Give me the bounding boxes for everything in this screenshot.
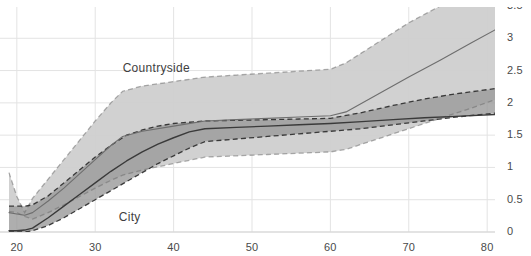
x-tick-label: 70 [402,241,415,253]
y-tick-label: 3 [507,31,513,43]
y-tick-label: 2 [507,96,513,108]
x-tick-label: 40 [167,241,180,253]
x-tick-label: 20 [11,241,24,253]
annotation-city: City [119,210,141,224]
y-tick-label: 0.5 [507,193,523,205]
y-tick-label: 1.5 [507,128,523,140]
y-tick-label: 1 [507,160,513,172]
x-tick-label: 50 [246,241,259,253]
x-tick-label: 80 [481,241,494,253]
x-tick-label: 60 [324,241,337,253]
x-tick-label: 30 [89,241,102,253]
chart-plot [0,0,531,256]
clipped-title-strip [0,0,531,7]
chart-container: 00.511.522.533.5 20304050607080 Countrys… [0,0,531,256]
y-tick-label: 0 [507,225,513,237]
annotation-countryside: Countryside [123,61,190,75]
y-tick-label: 2.5 [507,64,523,76]
